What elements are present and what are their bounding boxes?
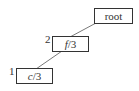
node-c3-rest: /3 xyxy=(33,70,42,82)
node-root-label: root xyxy=(105,10,123,22)
node-f3-index: 2 xyxy=(45,34,51,45)
node-f3-label: f/3 xyxy=(65,38,77,50)
edge-f3-c3 xyxy=(36,51,62,69)
node-c3-index: 1 xyxy=(9,66,15,77)
edge-root-f3 xyxy=(70,23,96,37)
node-root: root xyxy=(94,8,133,24)
node-c3-label: c/3 xyxy=(28,70,41,82)
node-f3-rest: /3 xyxy=(68,38,77,50)
node-f3: f/3 xyxy=(52,36,89,52)
node-c3: c/3 xyxy=(16,68,53,84)
